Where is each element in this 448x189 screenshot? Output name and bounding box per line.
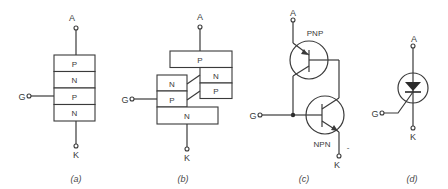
layer-label: P bbox=[197, 56, 202, 65]
terminal-label-anode: A bbox=[69, 13, 75, 23]
pnp-transistor-icon bbox=[290, 41, 339, 79]
layer-label: P bbox=[72, 93, 77, 102]
layer-label: P bbox=[213, 87, 218, 96]
cathode-terminal-icon bbox=[185, 147, 189, 151]
transistor-label-pnp: PNP bbox=[307, 29, 323, 38]
panel-caption: (b) bbox=[178, 174, 189, 184]
gate-terminal-icon bbox=[380, 111, 384, 115]
terminal-label-gate: G bbox=[371, 109, 378, 119]
connector-line bbox=[187, 91, 200, 100]
layer-label: N bbox=[213, 72, 219, 81]
panel-caption: (c) bbox=[299, 174, 310, 184]
terminal-label-cathode: K bbox=[73, 150, 79, 160]
terminal-label-cathode: K bbox=[334, 160, 340, 170]
anode-terminal-icon bbox=[198, 25, 202, 29]
layer-label: P bbox=[72, 60, 77, 69]
panel-c: A PNP G NPN - K (c) bbox=[249, 8, 349, 184]
gate-terminal-icon bbox=[258, 113, 262, 117]
layer-label: N bbox=[72, 76, 78, 85]
layer-label: N bbox=[72, 109, 78, 118]
gate-terminal-icon bbox=[130, 97, 134, 101]
terminal-label-gate: G bbox=[18, 92, 25, 102]
connector-line bbox=[187, 75, 200, 84]
cathode-terminal-icon bbox=[411, 126, 415, 130]
cathode-terminal-icon bbox=[337, 154, 341, 158]
panel-d: A G K (d) bbox=[371, 34, 428, 184]
layer-label: P bbox=[169, 96, 174, 105]
panel-b: A P N P N P N G K (b) bbox=[121, 12, 232, 184]
layer-stack: P N P N bbox=[54, 55, 95, 121]
terminal-label-cathode: K bbox=[410, 132, 416, 142]
transistor-label-npn: NPN bbox=[314, 140, 331, 149]
anode-terminal-icon bbox=[291, 18, 295, 22]
terminal-label-cathode: K bbox=[184, 153, 190, 163]
terminal-label-gate: G bbox=[121, 95, 128, 105]
panel-a: A P N P N G K (a) bbox=[18, 13, 95, 184]
layer-label: N bbox=[169, 80, 175, 89]
panel-caption: (d) bbox=[407, 174, 418, 184]
anode-terminal-icon bbox=[74, 26, 78, 30]
thyristor-figure: A P N P N G K (a) A P N P bbox=[0, 0, 448, 189]
layer-label: N bbox=[184, 112, 190, 121]
anode-terminal-icon bbox=[411, 44, 415, 48]
terminal-label-anode: A bbox=[411, 34, 417, 44]
terminal-label-gate: G bbox=[249, 111, 256, 121]
stray-mark: - bbox=[347, 143, 350, 152]
terminal-label-anode: A bbox=[290, 8, 296, 18]
terminal-label-anode: A bbox=[197, 12, 203, 22]
gate-terminal-icon bbox=[27, 94, 31, 98]
panel-caption: (a) bbox=[71, 174, 82, 184]
cathode-terminal-icon bbox=[74, 144, 78, 148]
